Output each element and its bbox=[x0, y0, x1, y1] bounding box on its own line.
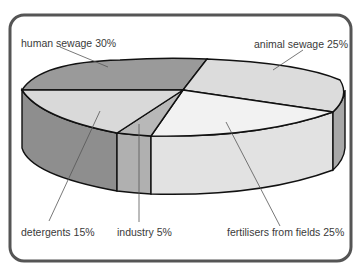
label-fertilisers: fertilisers from fields 25% bbox=[227, 226, 344, 238]
pie-chart: human sewage 30% animal sewage 25% ferti… bbox=[0, 0, 358, 274]
slice-side-industry bbox=[117, 133, 151, 194]
label-animal-sewage: animal sewage 25% bbox=[254, 38, 348, 50]
label-industry: industry 5% bbox=[117, 226, 172, 238]
label-detergents: detergents 15% bbox=[21, 226, 95, 238]
label-human-sewage: human sewage 30% bbox=[21, 37, 116, 49]
